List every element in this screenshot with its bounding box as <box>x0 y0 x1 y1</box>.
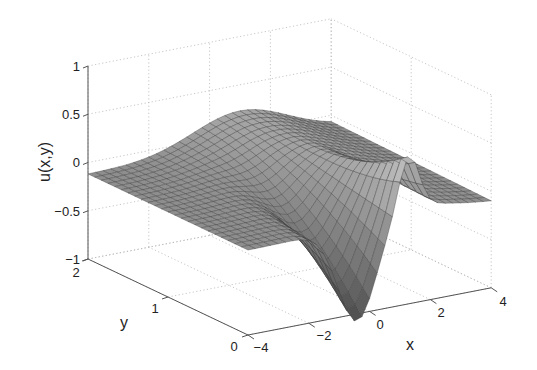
x-axis-label: x <box>406 336 414 353</box>
x-tick-label: −2 <box>317 328 332 343</box>
y-tick-label: 1 <box>151 301 158 316</box>
z-tick-label: −0.5 <box>54 204 80 219</box>
x-tick-label: 2 <box>437 305 444 320</box>
z-axis-label: u(x,y) <box>36 142 53 182</box>
x-tick-label: 0 <box>376 317 383 332</box>
y-axis-label: y <box>120 314 128 331</box>
y-tick-label: 0 <box>230 339 237 354</box>
surface-mesh <box>88 110 491 321</box>
z-tick-label: 0 <box>73 155 80 170</box>
y-tick-label: 2 <box>72 265 79 280</box>
x-tick-label: −4 <box>254 340 269 355</box>
z-tick-label: 0.5 <box>62 107 80 122</box>
x-tick-label: 4 <box>499 294 506 309</box>
surface-plot: 1 0.5 0 −0.5 −1 2 1 0 −4 −2 0 2 4 x y u(… <box>0 0 537 370</box>
z-tick-label: 1 <box>73 59 80 74</box>
